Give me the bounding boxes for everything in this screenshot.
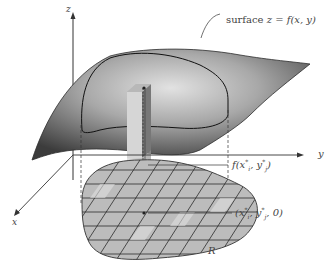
x-axis <box>14 155 73 216</box>
sample-point-label: (x*i, y*j, 0) <box>235 206 283 220</box>
region-label: R <box>208 245 216 256</box>
z-axis-label: z <box>66 4 71 14</box>
height-label: f(x*i, y*j) <box>232 158 271 172</box>
y-axis-label: y <box>318 148 324 159</box>
surface <box>32 49 310 160</box>
x-axis-label: x <box>12 217 17 227</box>
volume-diagram <box>0 0 331 272</box>
surface-label: surface z = f(x, y) <box>226 14 316 25</box>
sample-point <box>142 211 145 214</box>
